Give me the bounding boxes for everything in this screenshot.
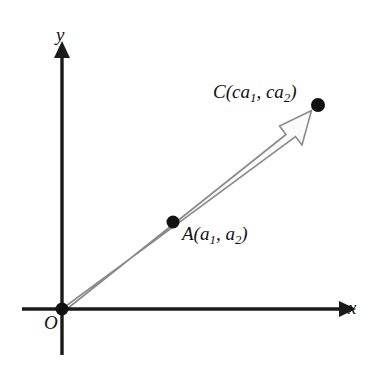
point-a-label: A(a1, a2)	[182, 224, 248, 243]
point-c-dot	[311, 98, 325, 112]
vector-diagram: y x O A(a1, a2) C(ca1, ca2)	[0, 0, 369, 367]
axes-group	[22, 41, 356, 355]
vector-outline-arrow	[63, 111, 312, 313]
x-axis-label: x	[348, 298, 356, 317]
point-a-dot	[167, 216, 180, 229]
vector-oc	[63, 111, 312, 313]
origin-label: O	[44, 313, 58, 332]
y-axis-label: y	[56, 25, 64, 44]
point-c-label: C(ca1, ca2)	[213, 82, 297, 101]
